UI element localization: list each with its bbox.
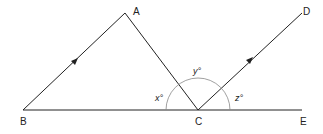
- label-D: D: [303, 6, 310, 17]
- label-B: B: [20, 116, 27, 127]
- angle-z-label: z°: [234, 93, 244, 103]
- label-A: A: [133, 6, 140, 17]
- angle-x-label: x°: [154, 93, 164, 103]
- angle-arc: [166, 78, 230, 110]
- label-C: C: [195, 116, 202, 127]
- label-E: E: [300, 116, 307, 127]
- geometry-diagram: A B C D E x° y° z°: [0, 0, 323, 134]
- parallel-arrow-CD-icon: [246, 57, 253, 64]
- angle-y-label: y°: [192, 66, 202, 76]
